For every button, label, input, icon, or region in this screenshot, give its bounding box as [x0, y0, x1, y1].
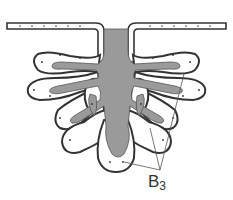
gland-diagram [0, 0, 233, 200]
label-b3: B3 [148, 173, 166, 192]
label-b3-main: B [148, 172, 159, 191]
label-b3-sub: 3 [159, 179, 166, 193]
